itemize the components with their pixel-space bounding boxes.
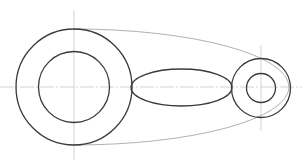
- drawing-background: [0, 0, 304, 167]
- technical-drawing: [0, 0, 304, 167]
